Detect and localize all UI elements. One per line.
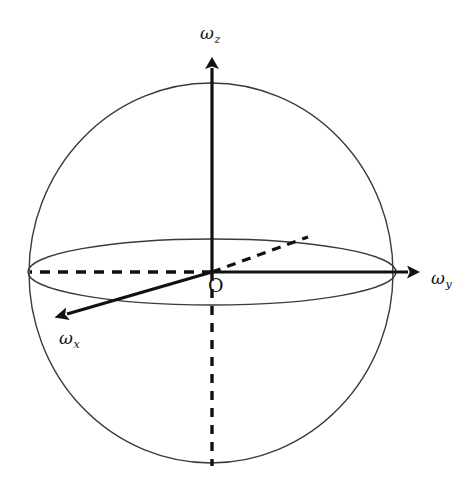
omega-symbol-x: ω (59, 328, 73, 348)
omega-symbol-z: ω (200, 23, 214, 43)
subscript-z: z (214, 33, 220, 46)
z-axis-label: ωz (200, 25, 220, 45)
x-axis-positive (67, 272, 212, 314)
coordinate-sphere-diagram (0, 0, 469, 486)
x-axis-negative-dashed (212, 237, 308, 272)
y-axis-label: ωy (431, 270, 452, 290)
omega-symbol-y: ω (431, 268, 445, 288)
subscript-x: x (73, 338, 79, 351)
subscript-y: y (445, 278, 451, 291)
x-axis-label: ωx (59, 330, 80, 350)
origin-label: O (208, 276, 224, 295)
figure-canvas: ωz ωy ωx O (0, 0, 469, 486)
